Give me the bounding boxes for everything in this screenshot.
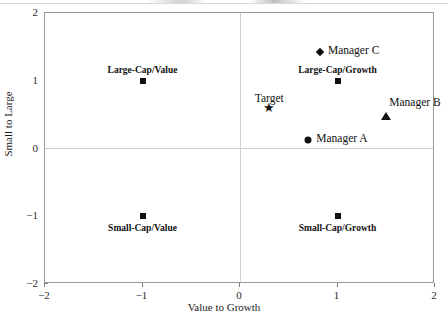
- data-point-manager-b-label: Manager B: [389, 96, 440, 108]
- x-tick-label: 0: [236, 289, 242, 301]
- y-tick-label: 2: [18, 6, 38, 18]
- data-point-manager-a-label: Manager A: [316, 132, 367, 144]
- top-edge-artifact-text-remnant: [146, 0, 346, 3]
- data-point-manager-b-marker: [381, 112, 391, 120]
- data-point-large-cap-growth-marker: [335, 78, 341, 84]
- x-axis-title: Value to Growth: [0, 301, 448, 313]
- data-point-manager-c-marker: [316, 48, 324, 56]
- data-point-manager-a-marker: [305, 137, 312, 144]
- x-tick: [239, 283, 240, 287]
- data-point-small-cap-growth-label: Small-Cap/Growth: [299, 223, 376, 233]
- y-tick-label: −1: [18, 209, 38, 221]
- data-point-large-cap-value-marker: [140, 78, 146, 84]
- style-box-scatter-chart: Small to Large −2−1012 Large-Cap/ValueSm…: [0, 0, 448, 321]
- x-tick-label: 1: [334, 289, 340, 301]
- y-tick-label: −2: [18, 277, 38, 289]
- x-tick: [337, 283, 338, 287]
- top-edge-artifact: [0, 3, 448, 4]
- x-tick: [44, 283, 45, 287]
- data-point-large-cap-growth-label: Large-Cap/Growth: [298, 65, 376, 75]
- x-tick-label: −2: [38, 289, 50, 301]
- plot-area: Large-Cap/ValueSmall-Cap/ValueLarge-Cap/…: [44, 12, 434, 283]
- data-point-small-cap-growth-marker: [335, 213, 341, 219]
- y-tick-label: 1: [18, 74, 38, 86]
- x-tick: [142, 283, 143, 287]
- y-tick-label: 0: [18, 142, 38, 154]
- x-tick-label: −1: [136, 289, 148, 301]
- data-point-small-cap-value-label: Small-Cap/Value: [108, 223, 177, 233]
- data-point-small-cap-value-marker: [140, 213, 146, 219]
- x-tick: [434, 283, 435, 287]
- x-tick-label: 2: [431, 289, 437, 301]
- data-point-large-cap-value-label: Large-Cap/Value: [108, 65, 178, 75]
- y-axis-title: Small to Large: [2, 64, 14, 184]
- zero-horizontal-gridline: [45, 148, 433, 149]
- data-point-target-label: Target: [255, 92, 284, 104]
- data-point-manager-c-label: Manager C: [328, 44, 379, 56]
